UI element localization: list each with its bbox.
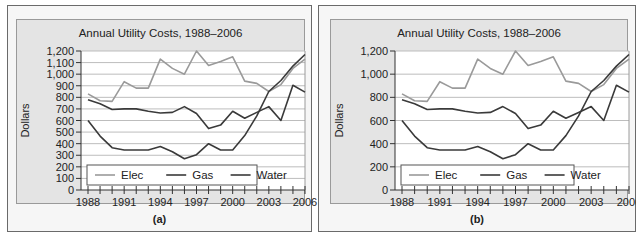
legend-elec-label: Elec	[121, 169, 144, 181]
chart-b-caption: (b)	[319, 213, 635, 225]
y-tick-label: 1,100	[46, 57, 74, 69]
x-tick-label: 2006	[617, 196, 636, 208]
y-tick-label: 800	[56, 91, 74, 103]
chart-a-plot: 01002003004005006007008009001,0001,1001,…	[17, 20, 306, 205]
y-axis-label: Dollars	[333, 103, 345, 138]
x-tick-label: 2000	[541, 196, 565, 208]
x-tick-label: 2006	[293, 196, 317, 208]
x-tick-label: 1991	[428, 196, 452, 208]
figure-b-frame: Annual Utility Costs, 1988–2006 02004006…	[318, 5, 636, 232]
y-tick-label: 1,000	[46, 68, 74, 80]
y-tick-label: 1,000	[360, 68, 388, 80]
y-tick-label: 600	[370, 115, 388, 127]
x-tick-label: 1988	[76, 196, 100, 208]
y-tick-label: 0	[382, 184, 388, 196]
y-tick-label: 400	[370, 138, 388, 150]
y-tick-label: 1,200	[46, 45, 74, 57]
chart-a-caption: (a)	[8, 213, 311, 225]
x-tick-label: 2000	[220, 196, 244, 208]
x-tick-label: 1997	[184, 196, 208, 208]
legend-gas-label: Gas	[506, 169, 527, 181]
legend-gas-label: Gas	[192, 169, 213, 181]
y-tick-label: 800	[370, 91, 388, 103]
y-axis-label: Dollars	[19, 103, 31, 138]
y-tick-label: 400	[56, 138, 74, 150]
y-tick-label: 0	[68, 184, 74, 196]
legend-water-label: Water	[571, 169, 601, 181]
chart-b-plot: 02004006008001,0001,20019881991199419972…	[331, 20, 629, 205]
legend-elec-label: Elec	[435, 169, 458, 181]
y-tick-label: 200	[370, 161, 388, 173]
y-tick-label: 300	[56, 149, 74, 161]
chart-b-panel: Annual Utility Costs, 1988–2006 02004006…	[330, 19, 628, 204]
chart-a-panel: Annual Utility Costs, 1988–2006 01002003…	[16, 19, 305, 204]
y-tick-label: 100	[56, 172, 74, 184]
y-tick-label: 200	[56, 161, 74, 173]
y-tick-label: 600	[56, 115, 74, 127]
y-tick-label: 1,200	[360, 45, 388, 57]
x-tick-label: 1991	[112, 196, 136, 208]
x-tick-label: 2003	[257, 196, 281, 208]
y-tick-label: 900	[56, 80, 74, 92]
y-tick-label: 700	[56, 103, 74, 115]
y-tick-label: 500	[56, 126, 74, 138]
x-tick-label: 1988	[390, 196, 414, 208]
x-tick-label: 1997	[503, 196, 527, 208]
x-tick-label: 1994	[465, 196, 489, 208]
legend-water-label: Water	[257, 169, 287, 181]
figure-a-frame: Annual Utility Costs, 1988–2006 01002003…	[7, 5, 312, 232]
x-tick-label: 2003	[579, 196, 603, 208]
x-tick-label: 1994	[148, 196, 172, 208]
